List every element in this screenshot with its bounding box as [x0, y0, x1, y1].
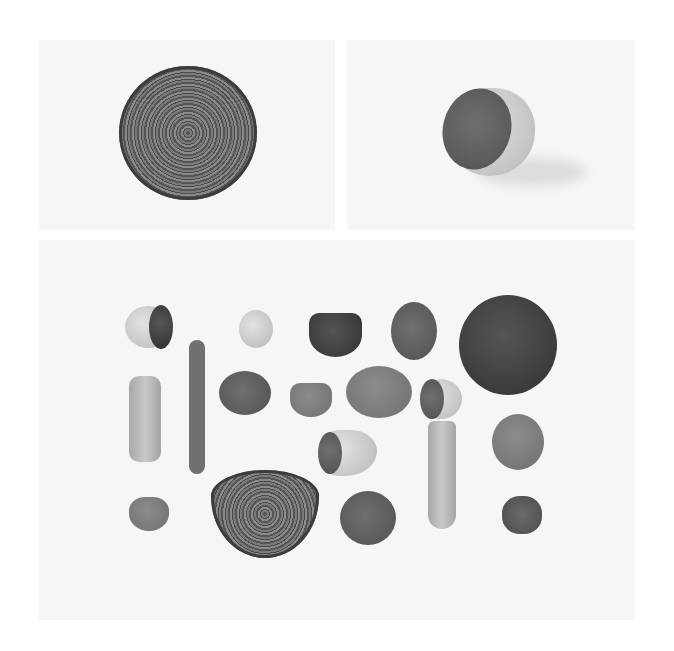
photo-panel-turnip: [347, 40, 635, 230]
red-cabbage-dome: [211, 470, 319, 558]
turnip-small-half: [129, 497, 169, 531]
turnip-cut-face-2: [420, 379, 444, 419]
broccoli-floret: [502, 496, 542, 534]
long-bean: [189, 340, 205, 474]
red-cabbage-half-1: [459, 295, 557, 395]
carrot-piece: [129, 376, 161, 462]
beet-slice: [492, 414, 544, 470]
turnip-cone-face: [318, 432, 342, 474]
photo-panel-arrangement: [39, 240, 635, 620]
sweet-potato-half: [346, 366, 412, 418]
beet-half-3: [340, 491, 396, 545]
cabbage-cross-section: [119, 66, 257, 200]
photo-panel-cabbage: [39, 40, 335, 230]
radish-half-1: [239, 310, 273, 348]
beet-half-1: [309, 313, 362, 357]
radish-half-small: [290, 383, 332, 417]
radish-half-2: [219, 371, 271, 415]
carrot-end: [428, 421, 456, 529]
beet-half-2: [391, 302, 437, 360]
turnip-cut-face-1: [149, 305, 173, 349]
